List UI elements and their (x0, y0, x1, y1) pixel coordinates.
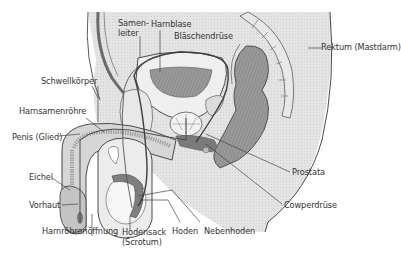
label-penis: Penis (Glied) (12, 133, 62, 142)
label-blaeschendruese: Bläschendrüse (174, 32, 233, 41)
label-harnsamenroehre: Harnsamenröhre (19, 107, 86, 116)
label-harnroehrenoeffnung: Harnröhrenöffnung (42, 227, 118, 236)
label-prostata: Prostata (292, 168, 325, 177)
label-samenleiter: Samen- leiter (118, 19, 149, 38)
label-nebenhoden: Nebenhoden (204, 227, 255, 236)
label-samenleiter-line2: leiter (118, 29, 149, 39)
label-harnblase: Harnblase (151, 20, 191, 29)
label-hodensack-line2: (Scrotum) (122, 237, 166, 247)
label-vorhaut: Vorhaut (29, 201, 60, 210)
label-eichel: Eichel (29, 173, 53, 182)
label-hoden: Hoden (172, 227, 198, 236)
label-hodensack-line1: Hodensack (122, 227, 166, 237)
label-schwellkoerper: Schwellkörper (41, 77, 97, 86)
label-rektum: Rektum (Mastdarm) (321, 43, 401, 52)
label-hodensack: Hodensack (Scrotum) (122, 227, 166, 247)
label-cowperdruese: Cowperdrüse (284, 201, 337, 210)
